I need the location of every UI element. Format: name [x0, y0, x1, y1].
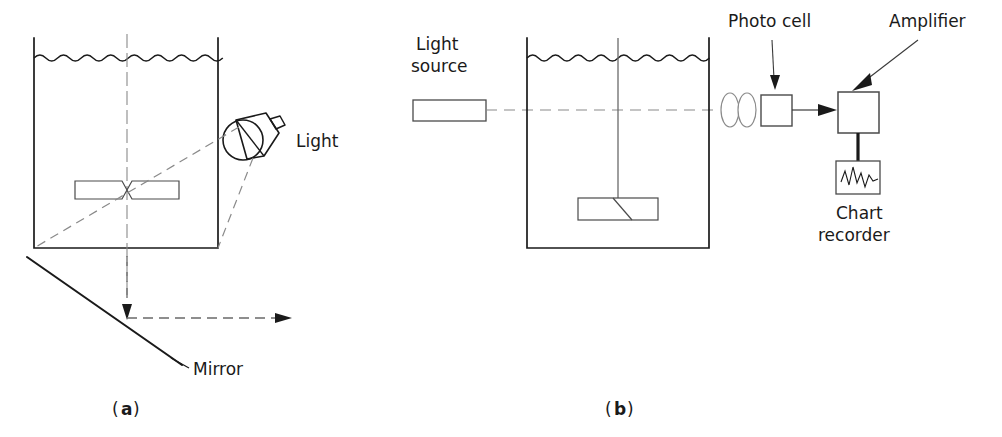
amplifier-leader [852, 40, 918, 91]
light-ray-a-lower [218, 158, 253, 248]
chart-recorder-label-line1: Chart [836, 203, 883, 223]
light-source-label-line1: Light [416, 34, 459, 54]
chart-recorder-box [836, 161, 880, 194]
beam-reflected-a [127, 313, 292, 323]
figure-root: Light Mirror ( a ) [0, 0, 1002, 437]
panel-b-paren-open: ( [605, 399, 612, 419]
light-source-box [413, 100, 486, 121]
photo-cell-leader [770, 40, 780, 90]
amplifier-label: Amplifier [889, 11, 966, 31]
panel-a-paren-close: ) [133, 399, 140, 419]
mirror-leader-a [171, 358, 189, 368]
light-source-label-line2: source [411, 56, 467, 76]
panel-caption-b: ( b ) [605, 399, 634, 419]
photo-cell-box [761, 95, 792, 126]
light-bulb-icon-a [223, 113, 285, 160]
panel-a: Light Mirror ( a ) [27, 34, 339, 419]
mirror-label-a: Mirror [193, 359, 243, 379]
tank-a [34, 38, 223, 248]
beam-down-a [122, 256, 132, 320]
panel-b: Light source [411, 11, 966, 419]
liquid-surface-a [34, 55, 223, 61]
amplifier-box [838, 92, 879, 133]
chart-recorder-label-line2: recorder [818, 225, 890, 245]
panel-a-letter: a [121, 399, 132, 419]
light-label-a: Light [296, 131, 339, 151]
panel-b-paren-close: ) [627, 399, 634, 419]
figure-canvas: Light Mirror ( a ) [0, 0, 1002, 437]
lens-assembly-b [721, 93, 756, 127]
panel-caption-a: ( a ) [112, 399, 140, 419]
mirror-line-a [27, 257, 182, 365]
panel-a-paren-open: ( [112, 399, 119, 419]
impeller-b [578, 198, 658, 220]
panel-b-letter: b [614, 399, 626, 419]
photo-cell-label: Photo cell [728, 11, 811, 31]
signal-line-photocell-amplifier [792, 104, 837, 116]
